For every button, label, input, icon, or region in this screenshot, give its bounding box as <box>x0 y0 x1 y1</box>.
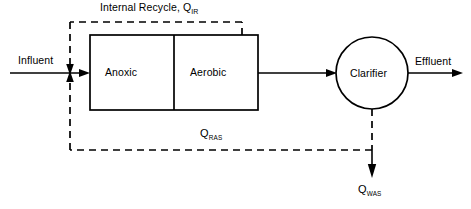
ras-label-subscript: RAS <box>209 134 223 141</box>
effluent-label: Effluent <box>415 56 451 67</box>
was-label-text: Q <box>358 183 367 195</box>
was-label-subscript: WAS <box>367 190 382 197</box>
aerobic-label: Aerobic <box>190 67 226 78</box>
ras-label: QRAS <box>200 128 222 142</box>
anoxic-label: Anoxic <box>105 67 137 78</box>
was-arrowhead <box>368 164 376 178</box>
internal-recycle-label: Internal Recycle, QIR <box>100 2 199 15</box>
effluent-arrowhead <box>452 69 463 77</box>
internal-recycle-label-text: Internal Recycle, Q <box>100 1 191 13</box>
clarifier-label: Clarifier <box>350 68 387 79</box>
flow-diagram-canvas <box>0 0 471 209</box>
process-flow-diagram: Internal Recycle, QIR Influent Anoxic Ae… <box>0 0 471 209</box>
influent-arrowhead <box>79 69 90 77</box>
influent-label: Influent <box>18 55 53 66</box>
was-label: QWAS <box>358 184 382 198</box>
internal-recycle-label-subscript: IR <box>191 8 198 15</box>
ras-label-text: Q <box>200 127 209 139</box>
